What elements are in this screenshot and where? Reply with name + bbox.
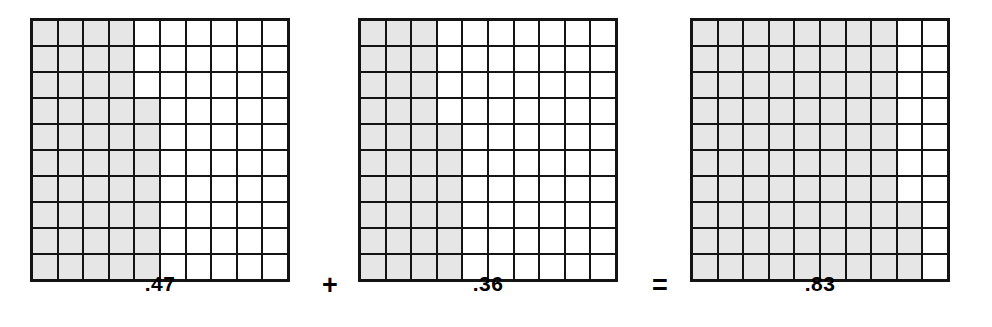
grid-cell <box>847 229 871 253</box>
grid-cell <box>770 151 794 175</box>
grid-cell <box>263 21 287 45</box>
grid-cell <box>212 151 236 175</box>
grid-cell <box>719 125 743 149</box>
grid-cell <box>898 73 922 97</box>
grid-cell <box>33 229 57 253</box>
grid-cell <box>566 125 590 149</box>
grid-cells-2 <box>358 18 618 282</box>
grid-cell <box>872 229 896 253</box>
grid-cell <box>212 21 236 45</box>
grid-cell <box>84 203 108 227</box>
grid-cell <box>161 47 185 71</box>
grid-label-2: .36 <box>358 272 618 296</box>
grid-cell <box>110 203 134 227</box>
grid-cell <box>59 99 83 123</box>
grid-cell <box>515 21 539 45</box>
grid-cell <box>744 47 768 71</box>
grid-cell <box>33 99 57 123</box>
grid-cell <box>693 125 717 149</box>
grid-cell <box>770 229 794 253</box>
grid-cell <box>693 21 717 45</box>
grid-cell <box>412 99 436 123</box>
grid-cell <box>898 99 922 123</box>
grid-cell <box>923 151 947 175</box>
grid-cell <box>489 73 513 97</box>
grid-cell <box>795 177 819 201</box>
grid-cell <box>361 47 385 71</box>
grid-cell <box>212 229 236 253</box>
grid-cell <box>719 47 743 71</box>
grid-cell <box>566 47 590 71</box>
grid-cell <box>872 21 896 45</box>
grid-cell <box>187 229 211 253</box>
grid-cell <box>387 21 411 45</box>
grid-cell <box>693 47 717 71</box>
grid-cell <box>59 21 83 45</box>
grid-cell <box>412 229 436 253</box>
grid-cell <box>898 21 922 45</box>
grid-cell <box>795 151 819 175</box>
grid-cell <box>412 177 436 201</box>
grid-cell <box>33 203 57 227</box>
grid-cell <box>361 177 385 201</box>
grid-cell <box>463 99 487 123</box>
grid-cell <box>212 203 236 227</box>
grid-cell <box>744 177 768 201</box>
hundred-grid-1 <box>30 18 290 282</box>
grid-cell <box>463 203 487 227</box>
grid-cell <box>438 99 462 123</box>
grid-cell <box>110 229 134 253</box>
grid-cell <box>263 73 287 97</box>
grid-cell <box>540 73 564 97</box>
grid-cell <box>110 151 134 175</box>
grid-cell <box>540 21 564 45</box>
grid-cell <box>110 125 134 149</box>
grid-cell <box>821 47 845 71</box>
grid-cell <box>795 21 819 45</box>
grid-cell <box>33 177 57 201</box>
grid-cell <box>566 99 590 123</box>
grid-cell <box>238 203 262 227</box>
plus-sign-icon: + <box>308 272 352 298</box>
grid-cell <box>361 73 385 97</box>
grid-cells-1 <box>30 18 290 282</box>
grid-cell <box>135 99 159 123</box>
grid-cell <box>438 73 462 97</box>
grid-cell <box>33 125 57 149</box>
grid-cell <box>847 21 871 45</box>
grid-cell <box>161 99 185 123</box>
hundred-grid-2 <box>358 18 618 282</box>
grid-cell <box>438 203 462 227</box>
grid-cell <box>770 21 794 45</box>
grid-cell <box>923 21 947 45</box>
grid-cell <box>135 21 159 45</box>
grid-cell <box>135 125 159 149</box>
grid-cell <box>412 21 436 45</box>
grid-cell <box>438 151 462 175</box>
grid-cell <box>795 73 819 97</box>
grid-cell <box>872 177 896 201</box>
grid-cell <box>212 73 236 97</box>
grid-cell <box>135 151 159 175</box>
grid-cell <box>770 47 794 71</box>
grid-cell <box>744 229 768 253</box>
grid-cell <box>263 47 287 71</box>
grid-cell <box>744 151 768 175</box>
grid-cell <box>923 99 947 123</box>
grid-cell <box>719 177 743 201</box>
grid-cell <box>263 203 287 227</box>
grid-cell <box>489 47 513 71</box>
grid-cell <box>33 73 57 97</box>
grid-cell <box>719 73 743 97</box>
grid-cell <box>161 21 185 45</box>
grid-cell <box>438 125 462 149</box>
grid-cell <box>719 151 743 175</box>
grid-cell <box>591 125 615 149</box>
grid-cells-3 <box>690 18 950 282</box>
grid-cell <box>59 229 83 253</box>
grid-cell <box>387 203 411 227</box>
grid-cell <box>187 203 211 227</box>
grid-cell <box>566 21 590 45</box>
grid-cell <box>566 177 590 201</box>
grid-cell <box>238 229 262 253</box>
